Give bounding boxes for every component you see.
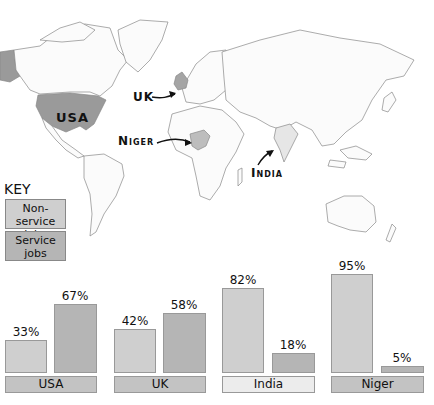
map-label-niger: Niger [118,134,154,148]
value-label: 5% [377,351,427,365]
category-label-usa: USA [5,376,97,393]
legend-label: jobs [6,247,65,260]
bar-uk-non-service [114,329,156,373]
legend-item-non-service: Non-service jobs [5,199,66,229]
value-label: 67% [50,289,100,303]
value-label: 82% [218,273,268,287]
bar-uk-service [163,313,206,373]
greenland-shape [118,20,168,72]
bar-india-non-service [222,288,264,373]
value-label: 95% [327,259,377,273]
legend-label: Non-service [6,202,65,228]
legend-label: Service [6,234,65,247]
category-label-uk: UK [114,376,206,393]
value-label: 18% [268,338,318,352]
asia-shape [222,30,414,146]
map-label-usa: USA [56,110,89,125]
india-shape [274,124,298,162]
australia-shape [326,196,376,232]
category-label-india: India [222,376,315,393]
bar-usa-non-service [5,340,47,373]
map-label-uk: UK [133,90,154,104]
legend-item-service: Service jobs [5,231,66,261]
bar-niger-non-service [331,274,373,373]
map-label-india: India [251,166,283,180]
africa-shape [168,106,244,200]
value-label: 33% [1,325,51,339]
legend-title: KEY [4,181,31,197]
south-america-shape [84,154,124,236]
category-label-niger: Niger [331,376,424,393]
uk-shape [174,72,188,90]
value-label: 58% [159,298,209,312]
bar-india-service [272,353,315,373]
value-label: 42% [110,314,160,328]
bar-niger-service [381,366,424,373]
bar-usa-service [54,304,97,373]
